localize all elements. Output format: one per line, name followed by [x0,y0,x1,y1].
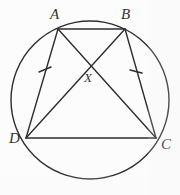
diagonal-AC [58,29,156,138]
vertex-label-b: B [121,7,130,22]
vertex-label-c: C [161,137,171,152]
vertex-label-a: A [50,7,59,22]
diagonal-BD [26,29,125,138]
geometry-svg-canvas [0,0,180,195]
intersection-label-x: X [84,71,92,84]
segment-AD [26,29,58,138]
geometry-figure: A B C D X [0,0,180,195]
tick-mark-BC-icon [130,70,142,73]
vertex-label-d: D [9,131,20,146]
